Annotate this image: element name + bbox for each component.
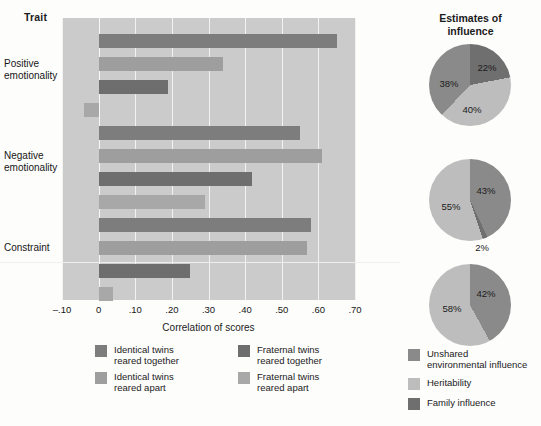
legend-swatch-icon: [95, 345, 107, 357]
legend-item: Fraternal twins reared apart: [238, 371, 319, 393]
page-fold-line: [0, 262, 400, 263]
x-tick-label: .10: [129, 304, 142, 315]
legend-label: Unshared environmental influence: [427, 348, 527, 370]
pie-slice-label: 40%: [462, 104, 481, 115]
pie-slice-label: 58%: [442, 303, 461, 314]
bar: [99, 80, 169, 94]
pie-slice-label: 2%: [475, 242, 489, 253]
bar-chart: Trait PositiveemotionalityNegativeemotio…: [0, 0, 400, 340]
legend-item: Identical twins reared together: [95, 344, 179, 366]
legend-swatch-icon: [95, 372, 107, 384]
bar: [84, 103, 99, 117]
x-tick-label: 0: [96, 304, 101, 315]
legend-item: Fraternal twins reared together: [238, 344, 322, 366]
gridline: [355, 18, 356, 300]
pies-title: Estimates ofinfluence: [400, 12, 541, 37]
pie-slice-label: 38%: [439, 78, 458, 89]
x-tick-label: .40: [239, 304, 252, 315]
legend-item: Unshared environmental influence: [408, 348, 541, 370]
x-tick-label: .60: [312, 304, 325, 315]
bar: [99, 195, 205, 209]
legend-swatch-icon: [408, 378, 420, 390]
legend-label: Fraternal twins reared together: [257, 344, 322, 366]
x-tick-label: .30: [202, 304, 215, 315]
legend-swatch-icon: [238, 345, 250, 357]
legend-label: Fraternal twins reared apart: [257, 371, 319, 393]
bar: [99, 287, 114, 301]
x-tick-label: .20: [165, 304, 178, 315]
legend-label: Identical twins reared apart: [114, 371, 174, 393]
category-label: Positiveemotionality: [4, 58, 124, 82]
legend-label: Heritability: [427, 377, 471, 388]
pie-slice-label: 55%: [441, 201, 460, 212]
category-label: Negativeemotionality: [4, 150, 124, 174]
trait-column-header: Trait: [24, 11, 47, 23]
legend-swatch-icon: [238, 372, 250, 384]
pie-legend: Unshared environmental influenceHeritabi…: [408, 348, 541, 417]
pie-slice-label: 22%: [477, 62, 496, 73]
bar: [99, 241, 308, 255]
category-label: Constraint: [4, 242, 124, 254]
legend-swatch-icon: [408, 349, 420, 361]
bar: [99, 264, 191, 278]
x-tick-label: .50: [275, 304, 288, 315]
x-tick-label: .70: [348, 304, 361, 315]
bar: [99, 34, 337, 48]
pie-chart: [429, 264, 511, 346]
legend-item: Identical twins reared apart: [95, 371, 174, 393]
legend-label: Family influence: [427, 397, 496, 408]
legend-swatch-icon: [408, 398, 420, 410]
legend-item: Heritability: [408, 377, 541, 390]
pie-slice-label: 42%: [476, 288, 495, 299]
legend-label: Identical twins reared together: [114, 344, 179, 366]
pie-chart-panel: Estimates ofinfluence 22%40%38%43%2%55%4…: [400, 0, 541, 426]
x-axis-title: Correlation of scores: [62, 322, 355, 333]
bar: [99, 172, 253, 186]
pie-slice-label: 43%: [476, 185, 495, 196]
bar: [99, 149, 322, 163]
bar: [99, 218, 311, 232]
bar: [99, 126, 300, 140]
x-tick-label: –.10: [53, 304, 72, 315]
legend-item: Family influence: [408, 397, 541, 410]
